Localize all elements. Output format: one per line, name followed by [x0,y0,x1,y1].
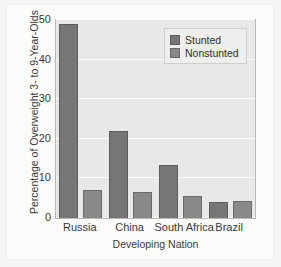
bar-china-stunted [109,131,128,218]
chart-figure: Percentage of Overweight 3- to 9-Year-Ol… [0,0,281,267]
x-tick-label: Russia [55,221,105,233]
legend-item-stunted: Stunted [170,33,239,46]
legend-label-stunted: Stunted [185,34,221,46]
y-tick-label: 50 [17,14,51,25]
y-tick-label: 20 [17,133,51,144]
legend-item-nonstunted: Nonstunted [170,46,239,59]
legend-swatch-stunted-icon [170,35,180,45]
chart-legend: Stunted Nonstunted [164,28,247,64]
bar-brazil-nonstunted [233,201,252,218]
y-axis-ticks: 01020304050 [0,19,55,219]
y-tick-label: 30 [17,93,51,104]
bar-south-africa-nonstunted [183,196,202,218]
y-tick-label: 10 [17,172,51,183]
bar-south-africa-stunted [159,165,178,218]
x-tick-label: China [105,221,155,233]
bar-russia-nonstunted [83,190,102,218]
legend-label-nonstunted: Nonstunted [185,47,239,59]
plot-area: Stunted Nonstunted [55,19,256,219]
x-axis-label: Developing Nation [55,238,256,250]
y-tick-label: 0 [17,212,51,223]
bar-china-nonstunted [133,192,152,218]
bar-russia-stunted [59,24,78,218]
x-tick-label: South Africa [155,221,205,233]
x-tick-label: Brazil [204,221,254,233]
x-axis-ticks: RussiaChinaSouth AfricaBrazil [55,221,256,237]
bar-brazil-stunted [209,202,228,218]
legend-swatch-nonstunted-icon [170,48,180,58]
y-tick-label: 40 [17,54,51,65]
